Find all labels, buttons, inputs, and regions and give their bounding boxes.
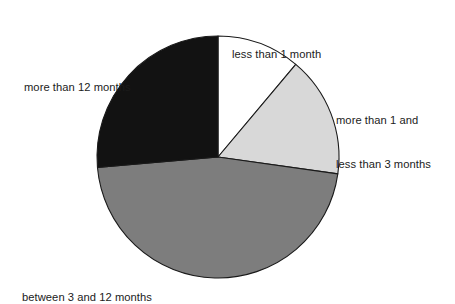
pie-label-more-than-12-months: more than 12 months [24, 51, 131, 124]
pie-label-line: more than 12 months [24, 80, 131, 95]
pie-label-line: more than 1 and [336, 113, 431, 128]
pie-chart: less than 1 month more than 1 and less t… [0, 0, 455, 304]
pie-label-line: less than 1 month [232, 47, 321, 62]
pie-label-line: between 3 and 12 months [22, 290, 152, 304]
pie-label-between-3-and-12-months: between 3 and 12 months [22, 261, 152, 304]
pie-label-less-than-1-month: less than 1 month [232, 18, 321, 91]
pie-label-line: less than 3 months [336, 157, 431, 172]
pie-label-more-than-1-and-less-than-3-months: more than 1 and less than 3 months [336, 84, 431, 200]
pie-slice-2 [97, 157, 337, 278]
